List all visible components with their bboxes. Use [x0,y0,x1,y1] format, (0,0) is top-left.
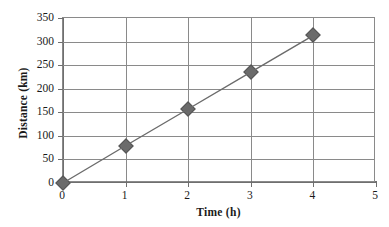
y-tick-label: 350 [14,11,54,23]
x-tick-label: 1 [110,189,140,201]
y-tick-label: 300 [14,35,54,47]
x-tick-label: 0 [47,189,77,201]
y-tick-label: 100 [14,129,54,141]
y-tick-label: 250 [14,58,54,70]
chart-figure: Distance (km) Time (h) 05010015020025030… [0,0,389,227]
x-tick-label: 2 [172,189,202,201]
x-tick-label: 5 [360,189,389,201]
y-tick-label: 150 [14,105,54,117]
x-tick [376,181,377,187]
series-line [63,18,376,183]
plot-area [62,17,375,182]
y-tick-label: 0 [14,176,54,188]
x-tick-label: 4 [297,189,327,201]
y-tick-label: 200 [14,82,54,94]
y-tick-label: 50 [14,152,54,164]
x-tick-label: 3 [235,189,265,201]
x-axis-title: Time (h) [62,206,375,218]
